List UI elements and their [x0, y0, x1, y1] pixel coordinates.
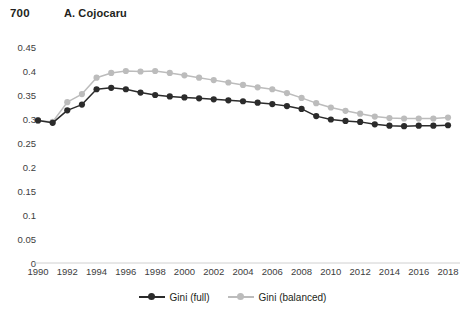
- data-point-marker: [298, 106, 304, 112]
- data-point-marker: [167, 70, 173, 76]
- data-point-marker: [93, 86, 99, 92]
- data-point-marker: [240, 98, 246, 104]
- data-point-marker: [416, 123, 422, 129]
- x-tick-label: 1998: [145, 266, 166, 277]
- x-tick-label: 2004: [232, 266, 253, 277]
- data-point-marker: [35, 117, 41, 123]
- data-point-marker: [298, 95, 304, 101]
- data-point-marker: [108, 85, 114, 91]
- chart-legend: Gini (full)Gini (balanced): [0, 286, 465, 308]
- legend-key-swatch: [139, 292, 165, 302]
- data-point-marker: [225, 79, 231, 85]
- data-point-marker: [123, 68, 129, 74]
- data-point-marker: [372, 121, 378, 127]
- data-point-marker: [342, 108, 348, 114]
- data-point-marker: [284, 103, 290, 109]
- data-point-marker: [313, 100, 319, 106]
- data-point-marker: [64, 99, 70, 105]
- data-point-marker: [430, 123, 436, 129]
- legend-key-swatch: [228, 292, 254, 302]
- data-point-marker: [167, 93, 173, 99]
- data-point-marker: [79, 91, 85, 97]
- data-point-marker: [269, 101, 275, 107]
- x-tick-label: 2018: [437, 266, 458, 277]
- x-tick-label: 1990: [27, 266, 48, 277]
- data-point-marker: [211, 96, 217, 102]
- data-point-marker: [357, 119, 363, 125]
- data-point-marker: [64, 107, 70, 113]
- data-point-marker: [416, 115, 422, 121]
- data-point-marker: [196, 95, 202, 101]
- data-point-marker: [152, 68, 158, 74]
- x-tick-label: 2008: [291, 266, 312, 277]
- data-point-marker: [181, 72, 187, 78]
- series-gini-full: [35, 85, 451, 130]
- data-point-marker: [255, 84, 261, 90]
- data-point-marker: [137, 90, 143, 96]
- x-tick-label: 2002: [203, 266, 224, 277]
- data-point-marker: [240, 82, 246, 88]
- legend-label: Gini (full): [170, 292, 210, 303]
- data-point-marker: [430, 115, 436, 121]
- series-line: [38, 88, 448, 126]
- series-gini-balanced: [35, 68, 451, 125]
- x-tick-label: 1996: [115, 266, 136, 277]
- legend-marker-icon: [237, 293, 244, 300]
- data-point-marker: [386, 115, 392, 121]
- data-point-marker: [211, 77, 217, 83]
- legend-marker-icon: [148, 293, 155, 300]
- x-tick-label: 1994: [86, 266, 107, 277]
- data-point-marker: [137, 68, 143, 74]
- data-point-marker: [357, 111, 363, 117]
- data-point-marker: [313, 113, 319, 119]
- data-point-marker: [342, 118, 348, 124]
- data-point-marker: [328, 116, 334, 122]
- x-tick-label: 2014: [379, 266, 400, 277]
- figure-700: 700 A. Cojocaru 00.050.10.150.20.250.30.…: [0, 0, 465, 311]
- data-point-marker: [181, 94, 187, 100]
- x-tick-label: 2006: [262, 266, 283, 277]
- data-point-marker: [401, 123, 407, 129]
- chart-canvas: [0, 0, 465, 311]
- x-tick-label: 2000: [174, 266, 195, 277]
- data-point-marker: [372, 114, 378, 120]
- x-tick-label: 2012: [350, 266, 371, 277]
- x-tick-label: 2016: [408, 266, 429, 277]
- data-point-marker: [328, 104, 334, 110]
- data-point-marker: [386, 123, 392, 129]
- data-point-marker: [269, 86, 275, 92]
- data-point-marker: [123, 86, 129, 92]
- x-axis-tick-labels: 1990199219941996199820002002200420062008…: [0, 266, 465, 280]
- legend-label: Gini (balanced): [259, 292, 327, 303]
- data-point-marker: [93, 75, 99, 81]
- legend-entry[interactable]: Gini (balanced): [228, 292, 327, 303]
- data-point-marker: [255, 100, 261, 106]
- data-point-marker: [284, 90, 290, 96]
- legend-entry[interactable]: Gini (full): [139, 292, 210, 303]
- data-point-marker: [152, 92, 158, 98]
- data-point-marker: [196, 75, 202, 81]
- data-point-marker: [445, 122, 451, 128]
- data-point-marker: [401, 115, 407, 121]
- data-point-marker: [108, 70, 114, 76]
- data-point-marker: [225, 97, 231, 103]
- data-point-marker: [79, 102, 85, 108]
- x-tick-label: 2010: [320, 266, 341, 277]
- x-tick-label: 1992: [57, 266, 78, 277]
- data-point-marker: [50, 120, 56, 126]
- data-point-marker: [445, 114, 451, 120]
